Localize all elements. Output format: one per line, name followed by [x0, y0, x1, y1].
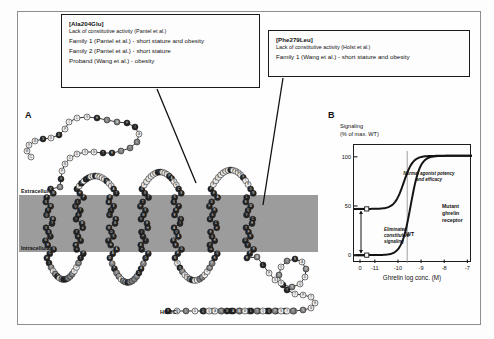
- svg-text:R: R: [247, 182, 249, 186]
- dose-response-chart: Signaling (% of max. WT) Normal agonist …: [326, 122, 478, 300]
- svg-text:A: A: [116, 247, 118, 251]
- svg-text:A: A: [173, 226, 175, 230]
- c-terminal-residue: W: [242, 308, 248, 314]
- c-terminal-residue: P: [272, 308, 278, 314]
- svg-text:Y: Y: [51, 221, 53, 225]
- residue-circle: G: [91, 149, 97, 155]
- svg-text:E: E: [115, 217, 117, 221]
- c-terminal-residue: A: [212, 308, 218, 314]
- residue-circle: H: [108, 242, 114, 248]
- residue-circle: N: [300, 307, 306, 313]
- svg-text:H: H: [251, 221, 253, 225]
- residue-circle: W: [24, 148, 30, 154]
- c-terminal-residue: Q: [260, 308, 266, 314]
- svg-text:A: A: [256, 255, 258, 259]
- residue-circle: F: [124, 120, 130, 126]
- residue-circle: P: [266, 270, 272, 276]
- svg-text:E: E: [140, 243, 142, 247]
- residue-circle: I: [132, 124, 138, 130]
- svg-text:N: N: [174, 256, 176, 260]
- svg-text:E: E: [111, 261, 113, 265]
- svg-text:D: D: [111, 230, 113, 234]
- residue-circle: I: [139, 229, 145, 235]
- svg-text:R: R: [214, 238, 216, 242]
- residue-circle: T: [127, 145, 133, 151]
- svg-text:V: V: [80, 238, 82, 242]
- svg-text:E: E: [180, 191, 182, 195]
- svg-text:Q: Q: [45, 213, 47, 217]
- svg-text:Y: Y: [120, 149, 122, 153]
- svg-text:H: H: [75, 243, 77, 247]
- residue-circle: Y: [207, 242, 213, 248]
- svg-text:M: M: [109, 256, 111, 260]
- svg-text:N: N: [278, 273, 280, 277]
- residue-circle: F: [140, 261, 146, 267]
- x-tick-label: -11: [371, 265, 379, 271]
- residue-circle: E: [178, 190, 184, 196]
- residue-circle: E: [172, 212, 178, 218]
- svg-text:S: S: [280, 309, 282, 313]
- callout-ala204glu[interactable]: [Ala204Glu] Lack of constitutive activit…: [61, 14, 260, 88]
- svg-text:N: N: [176, 261, 178, 265]
- residue-circle: P: [80, 251, 86, 257]
- backbone-trace: [27, 117, 315, 311]
- svg-text:M: M: [172, 238, 174, 242]
- residue-circle: E: [138, 242, 144, 248]
- residue-circle: M: [79, 221, 85, 227]
- svg-text:Y: Y: [286, 309, 288, 313]
- svg-text:G: G: [114, 221, 116, 225]
- y-axis-title-line2: (% of max. WT): [340, 130, 379, 138]
- svg-text:R: R: [253, 247, 255, 251]
- svg-text:H: H: [47, 243, 49, 247]
- svg-text:Y: Y: [209, 243, 211, 247]
- svg-text:Q: Q: [175, 230, 177, 234]
- svg-text:G: G: [181, 247, 183, 251]
- svg-text:M: M: [50, 204, 52, 208]
- svg-text:D: D: [58, 133, 60, 137]
- residue-circle: A: [254, 254, 260, 260]
- receptor-snake-plot: CWKMSDDPILVHLAFIALTYRTGVDCNFVDVMFSMVQMYV…: [17, 105, 322, 325]
- svg-text:Y: Y: [145, 238, 147, 242]
- svg-text:D: D: [59, 185, 61, 189]
- basal-marker: [365, 253, 369, 257]
- svg-text:G: G: [93, 150, 95, 154]
- residue-circle: K: [26, 142, 32, 148]
- residue-circle: D: [56, 132, 62, 138]
- svg-text:Q: Q: [247, 208, 249, 212]
- svg-text:C: C: [78, 261, 80, 265]
- x-tick-label: -9: [419, 265, 424, 271]
- residue-circle: R: [109, 150, 115, 156]
- annotation-normal-potency: Normal agonist potency and efficacy: [402, 171, 456, 183]
- svg-text:A: A: [113, 187, 115, 191]
- c-terminal-residue: Q: [200, 308, 206, 314]
- svg-text:E: E: [213, 191, 215, 195]
- residue-circle: P: [300, 292, 306, 298]
- svg-text:Y: Y: [115, 191, 117, 195]
- svg-text:D: D: [211, 200, 213, 204]
- svg-text:P: P: [82, 251, 84, 255]
- residue-circle: E: [243, 199, 249, 205]
- svg-text:P: P: [64, 127, 66, 131]
- svg-text:V: V: [45, 226, 47, 230]
- svg-text:A: A: [140, 266, 142, 270]
- svg-text:K: K: [145, 208, 147, 212]
- residue-circle: D: [74, 151, 80, 157]
- y-tick-label: 0: [348, 252, 351, 258]
- callout-phe279leu[interactable]: [Phe279Leu] Lack of constitutive activit…: [268, 30, 470, 77]
- residue-circle: Y: [118, 148, 124, 154]
- svg-text:A: A: [116, 120, 118, 124]
- residue-circle: L: [183, 308, 189, 314]
- svg-text:A: A: [217, 195, 219, 199]
- residue-circle: S: [110, 233, 116, 239]
- svg-text:S: S: [48, 230, 50, 234]
- svg-text:S: S: [173, 200, 175, 204]
- residue-circle: S: [171, 199, 177, 205]
- svg-text:S: S: [42, 137, 44, 141]
- residue-circle: E: [312, 300, 318, 306]
- svg-text:A: A: [112, 251, 114, 255]
- svg-text:Y: Y: [246, 213, 248, 217]
- residue-circle: V: [245, 242, 251, 248]
- svg-text:E: E: [175, 243, 177, 247]
- callout-subheader: Lack of constitutive activity (Holst et …: [276, 44, 462, 52]
- svg-text:M: M: [52, 217, 54, 221]
